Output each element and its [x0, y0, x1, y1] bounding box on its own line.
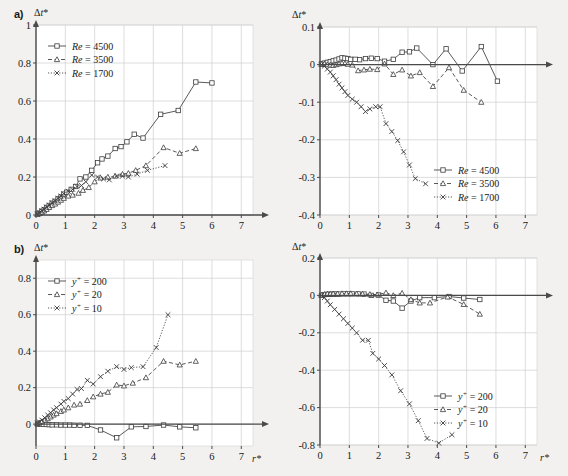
data-point: [391, 57, 395, 61]
legend-label: y+ = 200: [457, 390, 493, 402]
legend-label: y+ = 200: [71, 275, 107, 287]
legend-marker: [55, 279, 59, 283]
data-point: [78, 177, 82, 181]
data-point: [114, 436, 118, 440]
x-tick-label: 7: [239, 220, 244, 231]
data-point: [478, 297, 482, 301]
data-point: [129, 425, 133, 429]
y-axis-arrow: [33, 20, 39, 27]
y-tick-label: -0.4: [298, 210, 315, 221]
data-point: [158, 112, 162, 116]
plot-background: [36, 25, 253, 215]
legend: y+ = 200y+ = 20y+ = 10: [48, 275, 107, 314]
data-point: [495, 79, 499, 83]
data-point: [363, 56, 367, 60]
data-point: [407, 50, 411, 54]
data-point: [84, 175, 88, 179]
y-tick-label: 0.8: [18, 273, 31, 284]
y-axis-arrow: [317, 22, 323, 29]
data-point: [444, 47, 448, 51]
x-tick-label: 1: [347, 450, 352, 461]
x-tick-label: 1: [63, 220, 68, 231]
legend-marker: [441, 394, 445, 398]
panel-b-right: Δt* r* 012345670.20-0.2-0.4-0.6-0.8y+ = …: [284, 238, 568, 476]
y-tick-label: 0: [26, 210, 31, 221]
data-point: [353, 57, 357, 61]
legend-label: y+ = 20: [71, 288, 102, 300]
y-tick-label: 0.2: [18, 382, 31, 393]
data-point: [460, 69, 464, 73]
panel-a-left: a) Δt* 0123456700.20.40.60.81Re = 4500Re…: [0, 0, 284, 238]
x-axis-arrow: [546, 62, 553, 68]
x-tick-label: 2: [92, 220, 97, 231]
x-axis-arrow: [262, 421, 269, 427]
data-point: [144, 424, 148, 428]
x-tick-label: 6: [493, 450, 498, 461]
legend-label: Re = 3500: [457, 178, 499, 189]
y-tick-label: -0.3: [298, 172, 315, 183]
plot-area-a-left: 0123456700.20.40.60.81Re = 4500Re = 3500…: [0, 0, 284, 238]
y-tick-label: 0: [310, 290, 315, 301]
x-tick-label: 3: [405, 220, 410, 231]
panel-tag-a: a): [14, 8, 23, 20]
data-point: [384, 298, 388, 302]
y-tick-label: 0.2: [302, 253, 315, 264]
y-tick-label: -0.8: [298, 440, 315, 451]
data-point: [100, 157, 104, 161]
x-tick-label: 5: [464, 220, 469, 231]
data-point: [349, 57, 353, 61]
data-point: [194, 426, 198, 430]
y-axis-label: Δt*: [292, 241, 306, 252]
x-tick-label: 7: [523, 220, 528, 231]
legend: y+ = 200y+ = 20y+ = 10: [434, 390, 493, 429]
data-point: [461, 296, 465, 300]
data-point: [132, 132, 136, 136]
plot-background: [320, 27, 537, 215]
y-tick-label: 0.8: [18, 58, 31, 69]
x-tick-label: 1: [63, 451, 68, 462]
data-point: [98, 428, 102, 432]
x-tick-label: 4: [151, 451, 157, 462]
legend-label: Re = 4500: [71, 41, 113, 52]
y-tick-label: -0.1: [298, 97, 315, 108]
x-tick-label: 5: [180, 451, 185, 462]
y-axis-label: Δt*: [292, 9, 306, 20]
x-tick-label: 7: [239, 451, 244, 462]
x-tick-label: 6: [493, 220, 498, 231]
y-tick-label: 0.4: [18, 134, 32, 145]
y-tick-label: 0.4: [18, 346, 32, 357]
panel-b-left: b) Δt* r* 0123456700.20.40.60.8y+ = 200y…: [0, 238, 284, 476]
figure-root: a) Δt* 0123456700.20.40.60.81Re = 4500Re…: [0, 0, 568, 476]
legend-label: Re = 4500: [457, 165, 499, 176]
data-point: [210, 81, 214, 85]
y-tick-label: -0.2: [298, 134, 315, 145]
y-tick-label: 0.2: [18, 172, 31, 183]
x-tick-label: 6: [209, 220, 214, 231]
x-axis-label: r*: [252, 453, 261, 464]
data-point: [54, 423, 58, 427]
data-point: [194, 80, 198, 84]
plot-background: [320, 258, 537, 445]
x-axis-arrow: [262, 212, 269, 218]
x-tick-label: 2: [376, 450, 381, 461]
y-tick-label: -0.2: [298, 327, 315, 338]
data-point: [391, 299, 395, 303]
x-tick-label: 2: [92, 451, 97, 462]
data-point: [400, 50, 404, 54]
panel-a-right: Δt* 012345670.10-0.1-0.2-0.3-0.4Re = 450…: [284, 0, 568, 238]
x-tick-label: 0: [33, 220, 38, 231]
x-tick-label: 3: [405, 450, 410, 461]
plot-area-b-left: 0123456700.20.40.60.8y+ = 200y+ = 20y+ =…: [0, 238, 284, 476]
y-axis-label: Δt*: [34, 242, 48, 253]
data-point: [50, 423, 54, 427]
data-point: [106, 154, 110, 158]
x-tick-label: 3: [121, 451, 126, 462]
x-axis-label: r*: [540, 452, 549, 463]
plot-background: [36, 260, 253, 446]
x-tick-label: 4: [151, 220, 157, 231]
data-point: [113, 146, 117, 150]
data-point: [176, 108, 180, 112]
panel-tag-b: b): [14, 243, 24, 255]
data-point: [141, 136, 145, 140]
data-point: [177, 425, 181, 429]
